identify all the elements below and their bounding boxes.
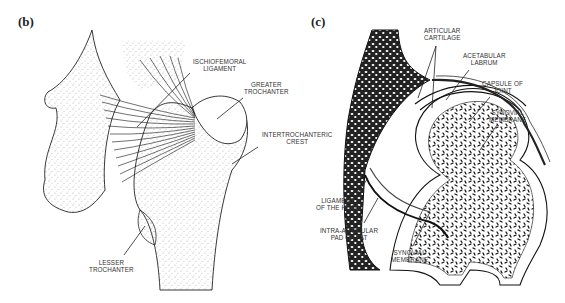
panel-label-c: (c) <box>311 14 325 30</box>
label-synovial-membrane-lower: SYNOVIAL MEMBRANE <box>391 249 428 263</box>
label-acetabular-labrum: ACETABULAR LABRUM <box>463 52 506 66</box>
hip-joint-illustrations <box>0 0 565 303</box>
label-synovial-membrane-upper: SYNOVIAL MEMBRANE <box>489 109 526 123</box>
label-lesser-trochanter: LESSER TROCHANTER <box>89 259 134 273</box>
panel-label-b: (b) <box>18 14 34 30</box>
label-intertrochanteric-crest: INTERTROCHANTERIC CREST <box>262 131 333 145</box>
label-ligament-of-head: LIGAMENT OF THE HEAD <box>316 197 359 211</box>
label-ischiofemoral-ligament: ISCHIOFEMORAL LIGAMENT <box>193 58 246 72</box>
label-greater-trochanter: GREATER TROCHANTER <box>244 81 289 95</box>
label-capsule-of-joint: CAPSULE OF JOINT <box>482 80 523 94</box>
label-intra-articular-pad-of-fat: INTRA-ARTICULAR PAD OF FAT <box>320 227 378 241</box>
coronal-section-illustration <box>344 30 550 285</box>
label-articular-cartilage: ARTICULAR CARTILAGE <box>424 27 460 41</box>
